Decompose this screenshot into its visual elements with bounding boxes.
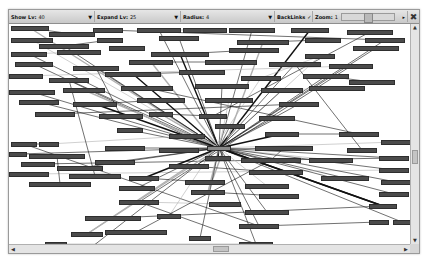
graph-node[interactable] bbox=[137, 28, 181, 33]
graph-node[interactable] bbox=[11, 52, 47, 57]
graph-node[interactable] bbox=[57, 166, 103, 171]
graph-node[interactable] bbox=[9, 152, 27, 157]
graph-node[interactable] bbox=[185, 180, 225, 185]
horizontal-scrollbar[interactable]: ◀ ▶ bbox=[9, 244, 410, 253]
scroll-left-icon[interactable]: ◀ bbox=[9, 245, 17, 253]
graph-node[interactable] bbox=[129, 60, 173, 65]
graph-node[interactable] bbox=[305, 38, 341, 43]
graph-node[interactable] bbox=[245, 210, 289, 215]
graph-node[interactable] bbox=[69, 174, 121, 179]
graph-node[interactable] bbox=[9, 90, 55, 95]
graph-node[interactable] bbox=[191, 190, 225, 195]
graph-node[interactable] bbox=[189, 236, 211, 241]
graph-node[interactable] bbox=[379, 168, 409, 173]
graph-node[interactable] bbox=[9, 172, 49, 177]
graph-node[interactable] bbox=[205, 156, 231, 161]
graph-node[interactable] bbox=[241, 76, 281, 81]
graph-node[interactable] bbox=[93, 28, 123, 33]
vertical-scrollbar[interactable]: ▲ ▼ bbox=[410, 24, 419, 244]
close-button[interactable]: ✖ bbox=[408, 11, 419, 22]
backlinks-checkbox[interactable]: BackLinks ✓ bbox=[275, 11, 313, 22]
graph-node[interactable] bbox=[49, 32, 95, 37]
graph-node[interactable] bbox=[105, 72, 161, 77]
graph-node[interactable] bbox=[353, 46, 399, 51]
graph-node[interactable] bbox=[259, 116, 295, 121]
graph-node[interactable] bbox=[169, 164, 209, 169]
graph-hub-node[interactable] bbox=[207, 146, 231, 151]
graph-node[interactable] bbox=[29, 154, 85, 159]
graph-node[interactable] bbox=[97, 38, 123, 43]
graph-node[interactable] bbox=[209, 202, 241, 207]
graph-node[interactable] bbox=[241, 158, 301, 163]
graph-node[interactable] bbox=[379, 192, 409, 197]
graph-node[interactable] bbox=[157, 214, 181, 219]
graph-node[interactable] bbox=[159, 148, 199, 153]
graph-node[interactable] bbox=[269, 62, 321, 67]
scroll-down-icon[interactable]: ▼ bbox=[411, 237, 419, 244]
graph-node[interactable] bbox=[199, 114, 227, 119]
graph-node[interactable] bbox=[347, 148, 377, 153]
graph-node[interactable] bbox=[49, 78, 89, 83]
graph-node[interactable] bbox=[305, 54, 335, 59]
vertical-scroll-thumb[interactable] bbox=[412, 150, 418, 164]
radius-dropdown[interactable]: Radius: 4 ▼ bbox=[181, 11, 275, 22]
graph-node[interactable] bbox=[29, 182, 91, 187]
graph-node[interactable] bbox=[229, 48, 279, 53]
graph-node[interactable] bbox=[265, 132, 299, 137]
zoom-slider-thumb[interactable] bbox=[364, 13, 373, 23]
graph-node[interactable] bbox=[309, 86, 365, 91]
scroll-up-icon[interactable]: ▲ bbox=[411, 24, 419, 31]
graph-node[interactable] bbox=[35, 112, 75, 117]
graph-node[interactable] bbox=[39, 44, 89, 49]
graph-node[interactable] bbox=[237, 40, 289, 45]
graph-node[interactable] bbox=[11, 26, 49, 31]
graph-node[interactable] bbox=[321, 176, 369, 181]
graph-node[interactable] bbox=[15, 62, 53, 67]
graph-node[interactable] bbox=[149, 112, 173, 117]
graph-node[interactable] bbox=[183, 28, 227, 33]
graph-node[interactable] bbox=[57, 50, 101, 55]
graph-node[interactable] bbox=[73, 66, 119, 71]
graph-node[interactable] bbox=[105, 230, 167, 235]
graph-node[interactable] bbox=[151, 52, 209, 57]
graph-node[interactable] bbox=[393, 220, 410, 225]
graph-node[interactable] bbox=[159, 36, 199, 41]
expand-level-dropdown[interactable]: Expand Lv: 25 ▼ bbox=[95, 11, 181, 22]
graph-node[interactable] bbox=[195, 84, 249, 89]
graph-node[interactable] bbox=[381, 180, 410, 185]
graph-node[interactable] bbox=[379, 156, 409, 161]
graph-node[interactable] bbox=[121, 86, 173, 91]
graph-node[interactable] bbox=[239, 224, 279, 229]
graph-node[interactable] bbox=[291, 28, 329, 33]
graph-node[interactable] bbox=[347, 30, 393, 35]
graph-node[interactable] bbox=[99, 114, 143, 119]
graph-node[interactable] bbox=[229, 28, 275, 33]
graph-node[interactable] bbox=[381, 140, 410, 145]
graph-node[interactable] bbox=[261, 88, 303, 93]
graph-node[interactable] bbox=[105, 146, 145, 151]
graph-node[interactable] bbox=[21, 162, 55, 167]
graph-node[interactable] bbox=[119, 186, 155, 191]
graph-node[interactable] bbox=[39, 142, 59, 147]
graph-node[interactable] bbox=[309, 158, 353, 163]
graph-node[interactable] bbox=[365, 38, 405, 43]
graph-node[interactable] bbox=[117, 128, 143, 133]
graph-node[interactable] bbox=[215, 124, 245, 129]
graph-node[interactable] bbox=[129, 176, 159, 181]
graph-node[interactable] bbox=[303, 74, 349, 79]
graph-node[interactable] bbox=[179, 70, 225, 75]
graph-node[interactable] bbox=[245, 184, 289, 189]
graph-node[interactable] bbox=[95, 160, 135, 165]
graph-node[interactable] bbox=[349, 80, 395, 85]
graph-node[interactable] bbox=[11, 38, 53, 43]
chevron-right-icon[interactable]: ▸ bbox=[402, 14, 405, 20]
horizontal-scroll-thumb[interactable] bbox=[213, 246, 229, 252]
scroll-right-icon[interactable]: ▶ bbox=[402, 245, 410, 253]
graph-node[interactable] bbox=[259, 194, 299, 199]
graph-node[interactable] bbox=[109, 46, 145, 51]
graph-node[interactable] bbox=[339, 132, 379, 137]
graph-node[interactable] bbox=[19, 100, 59, 105]
graph-canvas[interactable] bbox=[9, 24, 410, 244]
graph-node[interactable] bbox=[73, 102, 117, 107]
graph-node[interactable] bbox=[249, 170, 303, 175]
